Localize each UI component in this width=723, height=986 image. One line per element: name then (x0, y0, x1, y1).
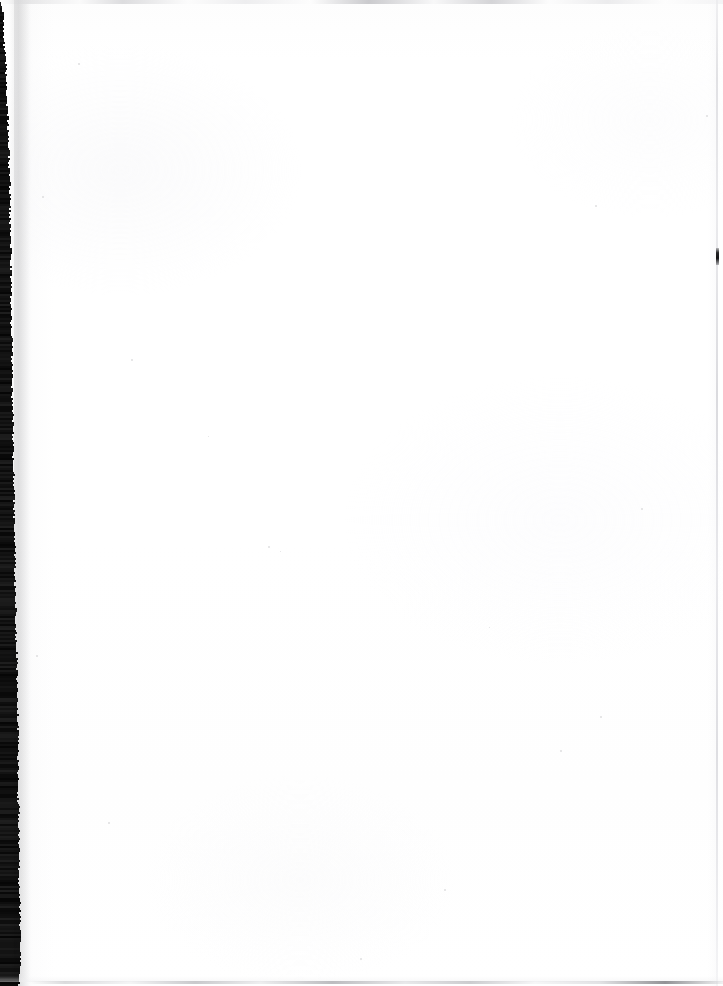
scanned-page (0, 0, 723, 986)
page-text-body (60, 60, 660, 920)
